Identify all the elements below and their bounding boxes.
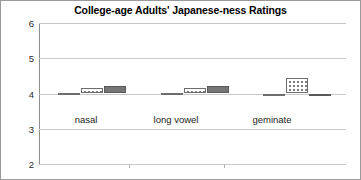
bar-geminate-solid bbox=[309, 94, 331, 97]
gridline-5 bbox=[39, 58, 346, 59]
bar-nasal-hatched bbox=[58, 93, 80, 96]
gridline-3 bbox=[39, 129, 346, 130]
y-tick-label-4: 4 bbox=[4, 88, 34, 99]
x-tick-1 bbox=[129, 164, 130, 168]
bar-long-vowel-hatched bbox=[161, 93, 183, 96]
y-tick-label-6: 6 bbox=[4, 18, 34, 29]
plot-area bbox=[39, 23, 346, 164]
gridline-4 bbox=[39, 94, 346, 95]
chart-container: College-age Adults' Japanese-ness Rating… bbox=[0, 0, 361, 180]
bar-geminate-hatched bbox=[263, 94, 285, 97]
bar-nasal-solid bbox=[104, 86, 126, 93]
bar-nasal-dotted bbox=[81, 88, 103, 93]
y-tick-label-5: 5 bbox=[4, 53, 34, 64]
y-tick-label-2: 2 bbox=[4, 159, 34, 170]
bar-long-vowel-solid bbox=[207, 86, 229, 93]
bar-long-vowel-dotted bbox=[184, 88, 206, 94]
gridline-2 bbox=[39, 164, 346, 165]
y-axis-tick-labels: 6 5 4 3 2 bbox=[1, 23, 34, 164]
y-tick-label-3: 3 bbox=[4, 123, 34, 134]
bar-geminate-dotted bbox=[286, 78, 308, 94]
x-tick-2 bbox=[224, 164, 225, 168]
gridline-6 bbox=[39, 23, 346, 24]
chart-title: College-age Adults' Japanese-ness Rating… bbox=[1, 4, 360, 16]
